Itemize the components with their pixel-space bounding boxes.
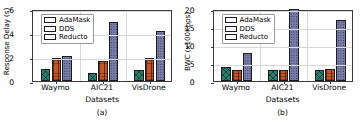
- y-axis-ticks-b: 05101520: [181, 8, 197, 82]
- legend-swatch-adamask-icon: [44, 17, 56, 23]
- bar-reducto-aic21: [109, 22, 119, 81]
- bar-adamask-aic21: [268, 70, 278, 81]
- legend-swatch-reducto-icon: [225, 34, 237, 40]
- y-tick-label: 10: [185, 42, 195, 51]
- grid-line: [214, 11, 352, 12]
- y-tick-mark: [30, 35, 33, 36]
- bar-group: [134, 11, 165, 81]
- legend-label: DDS: [59, 25, 74, 33]
- legend-item-reducto: Reducto: [44, 33, 90, 41]
- x-axis-label-a: Datasets: [32, 95, 172, 104]
- bar-dds-waymo: [52, 58, 62, 81]
- legend-label: AdaMask: [240, 16, 271, 24]
- panel-caption-a: (a): [32, 108, 172, 117]
- bar-dds-visdrone: [145, 58, 155, 81]
- bar-reducto-aic21: [289, 9, 299, 81]
- bar-reducto-waymo: [62, 56, 72, 81]
- y-tick-label: 0: [9, 78, 14, 87]
- grid-line: [33, 11, 171, 12]
- x-tick-label: AIC21: [91, 83, 113, 92]
- grid-line-vertical: [126, 11, 127, 81]
- figure-two-panel-bar-charts: Response Delay (s) 0246 WaymoAIC21VisDro…: [0, 0, 361, 128]
- legend-swatch-dds-icon: [225, 26, 237, 32]
- bar-dds-aic21: [98, 61, 108, 81]
- bar-adamask-aic21: [88, 73, 98, 81]
- x-axis-label-b: Datasets: [213, 95, 353, 104]
- legend-item-dds: DDS: [44, 25, 90, 33]
- legend-item-reducto: Reducto: [225, 33, 271, 41]
- bar-dds-visdrone: [325, 69, 335, 81]
- bar-adamask-visdrone: [134, 70, 144, 81]
- x-axis-tick-labels-b: WaymoAIC21VisDrone: [213, 83, 353, 95]
- legend-item-adamask: AdaMask: [44, 16, 90, 24]
- legend-item-adamask: AdaMask: [225, 16, 271, 24]
- x-tick-label: Waymo: [222, 83, 250, 92]
- legend-item-dds: DDS: [225, 25, 271, 33]
- bar-reducto-waymo: [243, 53, 253, 81]
- bar-adamask-visdrone: [315, 70, 325, 81]
- y-tick-mark: [30, 11, 33, 12]
- y-tick-mark: [30, 59, 33, 60]
- bar-adamask-waymo: [221, 67, 231, 81]
- y-tick-label: 4: [9, 30, 14, 39]
- bar-adamask-waymo: [41, 69, 51, 81]
- y-tick-mark: [211, 29, 214, 30]
- y-tick-mark: [211, 11, 214, 12]
- y-tick-mark: [211, 65, 214, 66]
- legend-label: Reducto: [240, 33, 269, 41]
- y-tick-mark: [211, 47, 214, 48]
- grid-line: [214, 65, 352, 66]
- bar-reducto-visdrone: [156, 31, 166, 81]
- legend-swatch-reducto-icon: [44, 34, 56, 40]
- x-tick-label: VisDrone: [132, 83, 166, 92]
- bar-dds-aic21: [279, 70, 289, 81]
- legend-label: DDS: [240, 25, 255, 33]
- legend-swatch-adamask-icon: [225, 17, 237, 23]
- y-tick-label: 2: [9, 54, 14, 63]
- y-tick-label: 5: [190, 60, 195, 69]
- y-tick-label: 0: [190, 78, 195, 87]
- bar-dds-waymo: [232, 70, 242, 81]
- y-tick-label: 20: [185, 6, 195, 15]
- legend-a: AdaMaskDDSReducto: [41, 14, 94, 44]
- legend-swatch-dds-icon: [44, 26, 56, 32]
- legend-b: AdaMaskDDSReducto: [222, 14, 275, 44]
- y-axis-ticks-a: 0246: [0, 8, 16, 82]
- panel-b: BWC (x100Kbps) 05101520 WaymoAIC21VisDro…: [181, 0, 361, 128]
- panel-a: Response Delay (s) 0246 WaymoAIC21VisDro…: [0, 0, 181, 128]
- x-tick-label: VisDrone: [312, 83, 346, 92]
- x-tick-label: Waymo: [41, 83, 69, 92]
- bar-group: [315, 11, 346, 81]
- x-tick-label: AIC21: [271, 83, 293, 92]
- y-tick-label: 6: [9, 6, 14, 15]
- legend-label: Reducto: [59, 33, 88, 41]
- legend-label: AdaMask: [59, 16, 90, 24]
- y-tick-label: 15: [185, 24, 195, 33]
- x-axis-tick-labels-a: WaymoAIC21VisDrone: [32, 83, 172, 95]
- grid-line: [33, 59, 171, 60]
- grid-line-vertical: [307, 11, 308, 81]
- panel-caption-b: (b): [213, 108, 353, 117]
- grid-line: [214, 47, 352, 48]
